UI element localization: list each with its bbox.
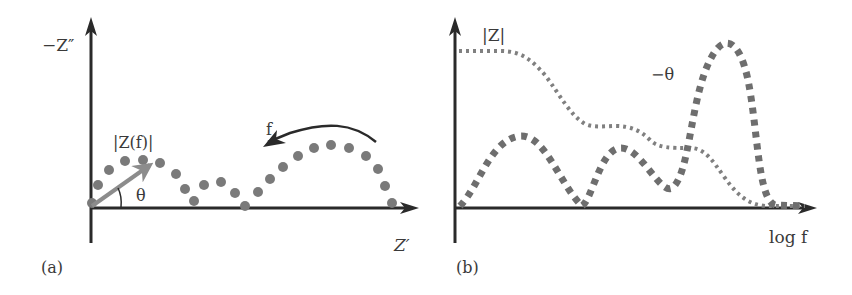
y-axis-label: −Z″ — [42, 35, 74, 55]
angle-label: θ — [136, 186, 146, 205]
impedance-figure: −Z″ Z′ |Z(f)| θ f (a) |Z| −θ log f (b) — [0, 0, 852, 295]
magnitude-curve — [459, 51, 805, 206]
frequency-direction-curve — [268, 126, 376, 142]
x-axis-label: log f — [769, 227, 809, 247]
vector-label: |Z(f)| — [113, 133, 153, 152]
phase-curve — [460, 43, 805, 206]
x-axis-label: Z′ — [393, 235, 410, 255]
panel-a-tag: (a) — [41, 258, 63, 277]
phase-label: −θ — [651, 65, 674, 84]
magnitude-label: |Z| — [482, 25, 505, 45]
panel-b-bode: |Z| −θ log f (b) — [449, 17, 817, 277]
angle-arc-icon — [118, 188, 121, 207]
panel-a-nyquist: −Z″ Z′ |Z(f)| θ f (a) — [41, 17, 419, 277]
panel-b-tag: (b) — [456, 258, 479, 277]
